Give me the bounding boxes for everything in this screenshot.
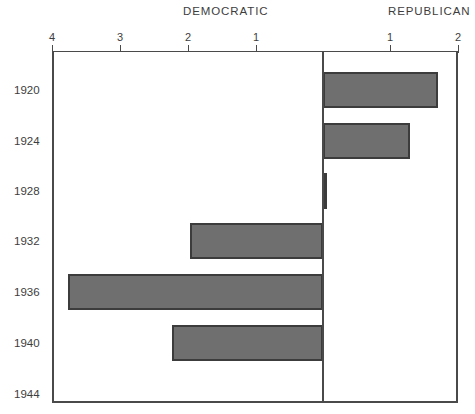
x-tick-label: 2: [185, 31, 191, 43]
year-label-1940: 1940: [14, 337, 40, 349]
bar-1924-republican: [323, 123, 410, 159]
bar-1932-democratic: [190, 223, 323, 259]
bar-1936-democratic: [68, 274, 323, 310]
year-label-1928: 1928: [14, 185, 40, 197]
legend-label-republican: REPUBLICAN: [388, 5, 471, 17]
year-label-1936: 1936: [14, 286, 40, 298]
year-label-1932: 1932: [14, 235, 40, 247]
bar-1920-republican: [323, 72, 438, 108]
bar-1940-democratic: [172, 325, 323, 361]
x-tick-label: 1: [253, 31, 259, 43]
year-label-1920: 1920: [14, 84, 40, 96]
x-tick-label: 3: [117, 31, 123, 43]
legend-label-democratic: DEMOCRATIC: [183, 5, 268, 17]
zero-baseline: [322, 52, 324, 403]
x-tick-label: 4: [49, 31, 55, 43]
x-tick-label: 2: [455, 31, 461, 43]
diverging-bar-chart: DEMOCRATIC REPUBLICAN 432112 19201924192…: [0, 0, 475, 414]
year-label-1944: 1944: [14, 388, 40, 400]
x-tick-label: 1: [387, 31, 393, 43]
year-label-1924: 1924: [14, 135, 40, 147]
